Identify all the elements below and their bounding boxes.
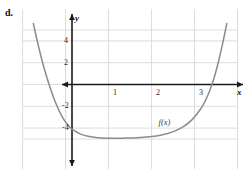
y-tick-label: 2 bbox=[64, 59, 68, 67]
x-tick-label: 2 bbox=[156, 89, 160, 97]
y-tick-label: 4 bbox=[64, 37, 68, 45]
x-axis-name: x bbox=[237, 88, 242, 97]
figure-container: d. y x f(x) 12342-2-4 bbox=[0, 0, 252, 178]
curve-label: f(x) bbox=[159, 118, 171, 127]
item-label: d. bbox=[5, 8, 13, 18]
y-axis-name: y bbox=[75, 14, 79, 23]
y-tick-label: -2 bbox=[62, 102, 69, 110]
function-plot bbox=[0, 0, 252, 178]
axes bbox=[62, 14, 243, 166]
x-tick-label: 3 bbox=[199, 89, 203, 97]
grid-lines bbox=[23, 9, 238, 169]
y-tick-label: -4 bbox=[62, 124, 69, 132]
x-tick-label: 1 bbox=[113, 89, 117, 97]
